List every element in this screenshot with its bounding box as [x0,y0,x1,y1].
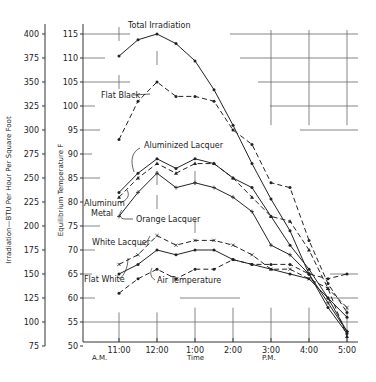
y-left-tick-label: 150 [24,270,39,279]
label-air-temperature: Air Temperature [157,276,221,285]
y-left-tick-label: 225 [24,198,39,207]
label-orange-lacquer: Orange Lacquer [136,215,201,224]
y-right-tick-label: 60 [68,294,78,303]
label-aluminized-lacquer: Aluminized Lacquer [144,141,224,150]
label-flat-black: Flat Black [101,91,140,100]
y-right-tick-label: 90 [68,150,78,159]
y-left-axis-label: Irradiation—BTU Per Hour Per Square Foot [5,116,13,264]
y-left-tick-label: 200 [24,222,39,231]
label-flat-white: Flat White [84,275,125,284]
y-right-tick-label: 65 [68,270,78,279]
y-right-tick-label: 95 [68,126,78,135]
x-tick-label: 11:00 [107,346,130,355]
am-label: A.M. [92,354,107,362]
x-tick-label: 2:00 [224,346,242,355]
inline-labels: Total Irradiation Flat Black Aluminized … [84,21,224,285]
series-line [119,34,347,334]
y-left-tick-label: 175 [24,246,39,255]
axes: 7510012515017520022525027530032535037540… [5,24,358,362]
y-right-tick-label: 75 [68,222,78,231]
y-right-tick-label: 115 [63,30,78,39]
y-right-tick-label: 70 [68,246,78,255]
y-right-tick-label: 50 [68,342,78,351]
chart: 7510012515017520022525027530032535037540… [0,0,376,382]
x-tick-label: 4:00 [300,346,318,355]
y-left-tick-label: 300 [24,126,39,135]
y-right-tick-label: 85 [68,174,78,183]
y-left-tick-label: 250 [24,174,39,183]
y-right-axis-label: Equilibrium Temperature F [57,144,65,236]
x-tick-label: 12:00 [145,346,168,355]
y-right-tick-label: 55 [68,318,78,327]
label-white-lacquer: White Lacquer [92,238,151,247]
label-total-irradiation: Total Irradiation [127,21,190,30]
y-left-tick-label: 325 [24,102,39,111]
pm-label: P.M. [262,354,276,362]
grid [83,27,358,342]
y-left-tick-label: 375 [24,54,39,63]
y-left-tick-label: 75 [29,342,39,351]
y-left-tick-label: 275 [24,150,39,159]
label-metal: Metal [91,209,113,218]
y-right-tick-label: 100 [63,102,78,111]
y-left-tick-label: 400 [24,30,39,39]
x-tick-label: 5:00 [338,346,356,355]
label-aluminum: Aluminum [84,199,125,208]
y-left-tick-label: 125 [24,294,39,303]
y-left-tick-label: 100 [24,318,39,327]
y-left-tick-label: 350 [24,78,39,87]
y-right-tick-label: 80 [68,198,78,207]
series-line [119,260,347,294]
x-axis-label: Time [186,354,204,362]
series-lines [117,33,349,338]
y-right-tick-label: 110 [63,54,78,63]
y-right-tick-label: 105 [63,78,78,87]
